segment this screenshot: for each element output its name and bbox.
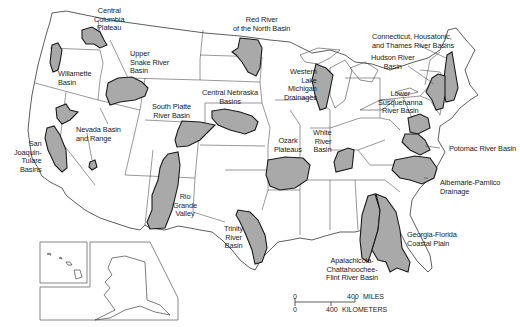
label-apalachicola-chattahoochee-flint: Apalachicola- Chattahoochee- Flint River… xyxy=(326,257,378,283)
basin-willamette xyxy=(50,43,62,72)
label-hudson-river-basin: Hudson River Basin xyxy=(371,54,415,71)
basin-nevada-small xyxy=(56,104,78,124)
hawaii xyxy=(47,253,82,279)
label-potomac-river-basin: Potomac River Basin xyxy=(449,145,516,154)
basin-central-nebraska xyxy=(212,109,258,134)
scale-miles-value: 400 xyxy=(347,293,359,300)
basin-nevada-dot xyxy=(89,160,97,170)
scale-miles-zero: 0 xyxy=(293,293,297,300)
label-san-joaquin-tulare-basins: San Joaquin- Tulare Basins xyxy=(14,140,42,174)
basin-potomac xyxy=(402,134,430,155)
scale-miles-unit: MILES xyxy=(363,293,384,300)
label-red-river-of-the-north-basin: Red River of the North Basin xyxy=(233,16,290,33)
inset-boxes xyxy=(40,242,178,320)
basin-red-river-north xyxy=(232,38,262,76)
scale-km-zero: 0 xyxy=(293,306,297,313)
label-trinity-river-basin: Trinity River Basin xyxy=(224,225,243,251)
basin-san-joaquin-tulare xyxy=(45,126,67,172)
basin-white-river xyxy=(334,148,354,172)
basin-ozark xyxy=(266,157,310,190)
label-georgia-florida-coastal-plain: Georgia-Florida Coastal Plain xyxy=(407,231,457,248)
label-albemarle-pamlico-drainage: Albemarle-Pamlico Drainage xyxy=(440,179,500,196)
label-nevada-basin-and-range: Nevada Basin and Range xyxy=(76,126,121,143)
basin-hudson xyxy=(426,74,445,110)
label-lower-susquehanna-river-basin: Lower Susquehanna River Basin xyxy=(378,90,423,116)
label-willamette-basin: Willamette Basin xyxy=(58,70,92,87)
basin-albemarle-pamlico xyxy=(392,156,437,184)
scale-km-unit: KILOMETERS xyxy=(342,306,387,313)
label-central-nebraska-basins: Central Nebraska Basins xyxy=(202,89,258,106)
label-ozark-plateaus: Ozark Plateaus xyxy=(274,137,302,154)
basin-south-platte xyxy=(175,121,215,147)
label-central-columbia-plateau: Central Columbia Plateau xyxy=(94,7,124,33)
alaska xyxy=(95,256,170,320)
scale-bar xyxy=(295,298,355,306)
scale-km-value: 400 xyxy=(326,306,338,313)
label-upper-snake-river-basin: Upper Snake River Basin xyxy=(130,50,169,76)
label-rio-grande-valley: Rio Grande Valley xyxy=(173,193,197,219)
label-white-river-basin: White River Basin xyxy=(313,129,331,155)
label-western-lake-michigan-drainages: Western Lake Michigan Drainages xyxy=(284,68,317,102)
label-connecticut-housatonic-thames: Connecticut, Housatonic, and Thames Rive… xyxy=(372,33,454,50)
label-south-platte-river-basin: South Platte River Basin xyxy=(152,103,191,120)
